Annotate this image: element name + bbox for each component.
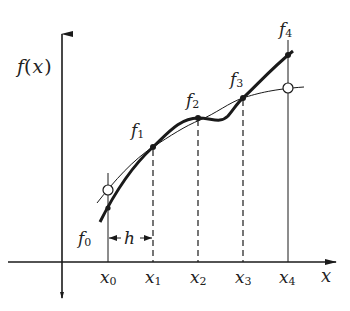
label-x4: x4 xyxy=(279,267,296,288)
y-axis-label: f(x) xyxy=(15,55,52,77)
label-f3: f3 xyxy=(228,69,243,90)
label-f0: f0 xyxy=(76,228,91,249)
approximating-curve xyxy=(97,87,304,203)
label-x0: x0 xyxy=(100,267,117,288)
hollow-point-x0 xyxy=(103,185,113,195)
point-f3 xyxy=(240,95,246,101)
point-f2 xyxy=(195,115,201,121)
function-curve xyxy=(100,51,293,222)
step-label-h: h xyxy=(124,228,135,248)
x-axis-label: x xyxy=(321,265,331,286)
point-f4 xyxy=(285,52,291,58)
label-f1: f1 xyxy=(129,120,144,141)
point-f1 xyxy=(150,144,156,150)
point-f0 xyxy=(105,205,110,210)
label-f4: f4 xyxy=(277,19,292,40)
label-x3: x3 xyxy=(235,267,252,288)
y-axis-bottom-tip xyxy=(60,292,64,299)
interpolation-diagram: h f(x) x x0 x1 x2 x3 x4 f0 f1 f2 f3 f4 xyxy=(0,0,350,311)
label-x1: x1 xyxy=(145,267,162,288)
label-f2: f2 xyxy=(184,90,199,111)
hollow-point-x4 xyxy=(283,83,293,93)
label-x2: x2 xyxy=(190,267,207,288)
